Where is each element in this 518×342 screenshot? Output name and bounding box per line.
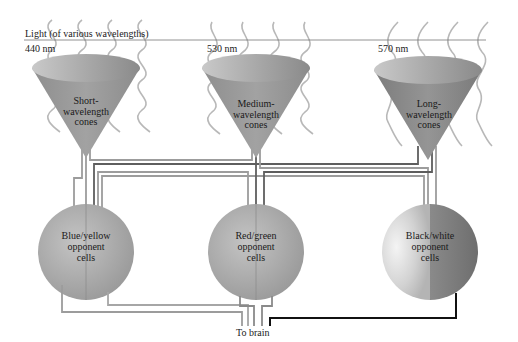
short-cone-label: Short- wavelength cones: [46, 96, 126, 128]
label-line: Long-: [389, 99, 469, 110]
label-line: cells: [46, 252, 126, 263]
color-vision-diagram: [0, 0, 518, 342]
label-line: opponent: [46, 241, 126, 252]
black-white-cell-label: Black/white opponent cells: [390, 230, 470, 263]
label-line: Short-: [46, 96, 126, 107]
wavelength-label-medium: 530 nm: [207, 43, 237, 54]
wavelength-label-long: 570 nm: [378, 43, 408, 54]
medium-cone-label: Medium- wavelength cones: [216, 99, 296, 131]
label-line: cells: [216, 252, 296, 263]
light-label: Light (of various wavelengths): [25, 28, 149, 39]
label-line: Blue/yellow: [46, 230, 126, 241]
label-line: opponent: [390, 241, 470, 252]
label-line: Medium-: [216, 99, 296, 110]
red-green-cell-label: Red/green opponent cells: [216, 230, 296, 263]
blue-yellow-cell-label: Blue/yellow opponent cells: [46, 230, 126, 263]
label-line: cones: [389, 120, 469, 131]
label-line: opponent: [216, 241, 296, 252]
to-brain-label: To brain: [236, 327, 269, 338]
label-line: Black/white: [390, 230, 470, 241]
label-line: Red/green: [216, 230, 296, 241]
wavelength-label-short: 440 nm: [25, 43, 55, 54]
label-line: cells: [390, 252, 470, 263]
label-line: cones: [46, 117, 126, 128]
wave-icon: [477, 22, 492, 146]
label-line: cones: [216, 120, 296, 131]
long-cone-label: Long- wavelength cones: [389, 99, 469, 131]
